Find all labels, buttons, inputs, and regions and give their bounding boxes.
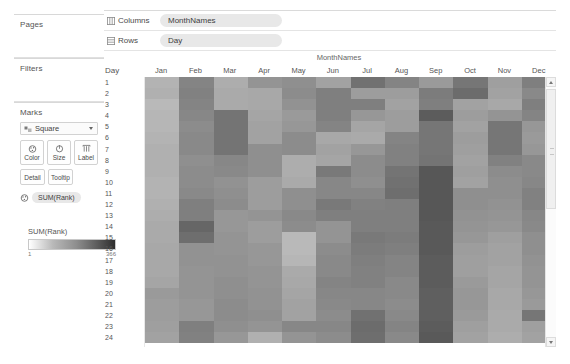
heatmap-cell[interactable] — [282, 177, 316, 188]
heatmap-cell[interactable] — [453, 266, 487, 277]
vertical-scrollbar[interactable] — [545, 77, 556, 347]
heatmap-cell[interactable] — [488, 166, 522, 177]
heatmap-cell[interactable] — [351, 177, 385, 188]
heatmap-cell[interactable] — [282, 199, 316, 210]
heatmap-cell[interactable] — [282, 288, 316, 299]
heatmap-cell[interactable] — [351, 132, 385, 143]
heatmap-cell[interactable] — [248, 332, 282, 343]
heatmap-cell[interactable] — [351, 99, 385, 110]
heatmap-cell[interactable] — [419, 232, 453, 243]
heatmap-cell[interactable] — [419, 99, 453, 110]
row-header-9[interactable]: 9 — [104, 166, 144, 177]
heatmap-cell[interactable] — [282, 155, 316, 166]
heatmap-cell[interactable] — [453, 121, 487, 132]
heatmap-cell[interactable] — [145, 177, 179, 188]
heatmap-cell[interactable] — [179, 321, 213, 332]
heatmap-cell[interactable] — [385, 266, 419, 277]
heatmap-cell[interactable] — [419, 332, 453, 343]
column-header-may[interactable]: May — [281, 66, 315, 75]
scrollbar-track[interactable] — [546, 87, 556, 337]
heatmap-cell[interactable] — [419, 155, 453, 166]
heatmap-cell[interactable] — [419, 88, 453, 99]
heatmap-cell[interactable] — [145, 299, 179, 310]
row-header-4[interactable]: 4 — [104, 110, 144, 121]
heatmap-cell[interactable] — [179, 144, 213, 155]
heatmap-cell[interactable] — [351, 77, 385, 88]
heatmap-cell[interactable] — [453, 232, 487, 243]
heatmap-cell[interactable] — [385, 332, 419, 343]
heatmap-cell[interactable] — [316, 221, 350, 232]
heatmap-cell[interactable] — [282, 221, 316, 232]
heatmap-cell[interactable] — [385, 243, 419, 254]
heatmap-cell[interactable] — [282, 88, 316, 99]
heatmap-cell[interactable] — [419, 321, 453, 332]
heatmap-cell[interactable] — [248, 243, 282, 254]
heatmap-cell[interactable] — [488, 332, 522, 343]
row-header-7[interactable]: 7 — [104, 144, 144, 155]
heatmap-cell[interactable] — [282, 132, 316, 143]
heatmap-cell[interactable] — [453, 177, 487, 188]
heatmap-cell[interactable] — [179, 266, 213, 277]
row-header-20[interactable]: 20 — [104, 288, 144, 299]
heatmap-cell[interactable] — [453, 155, 487, 166]
heatmap-cell[interactable] — [248, 199, 282, 210]
heatmap-cell[interactable] — [282, 321, 316, 332]
heatmap-cell[interactable] — [453, 132, 487, 143]
heatmap-cell[interactable] — [145, 166, 179, 177]
row-header-11[interactable]: 11 — [104, 188, 144, 199]
heatmap-cell[interactable] — [282, 144, 316, 155]
row-header-16[interactable]: 16 — [104, 243, 144, 254]
column-header-nov[interactable]: Nov — [487, 66, 521, 75]
heatmap-cell[interactable] — [316, 321, 350, 332]
row-header-17[interactable]: 17 — [104, 255, 144, 266]
heatmap-cell[interactable] — [248, 177, 282, 188]
heatmap-cell[interactable] — [248, 221, 282, 232]
heatmap-cell[interactable] — [316, 188, 350, 199]
heatmap-cell[interactable] — [316, 155, 350, 166]
heatmap-cell[interactable] — [488, 155, 522, 166]
heatmap-cell[interactable] — [179, 110, 213, 121]
heatmap-cell[interactable] — [179, 243, 213, 254]
heatmap-cell[interactable] — [453, 299, 487, 310]
heatmap-cell[interactable] — [145, 277, 179, 288]
heatmap-cell[interactable] — [214, 155, 248, 166]
heatmap-cell[interactable] — [214, 255, 248, 266]
heatmap-cell[interactable] — [145, 144, 179, 155]
row-header-14[interactable]: 14 — [104, 221, 144, 232]
columns-shelf[interactable]: Columns MonthNames — [104, 10, 556, 31]
heatmap-cell[interactable] — [488, 321, 522, 332]
scroll-down-button[interactable] — [546, 337, 556, 347]
heatmap-cell[interactable] — [145, 188, 179, 199]
heatmap-cell[interactable] — [488, 144, 522, 155]
heatmap-cell[interactable] — [214, 288, 248, 299]
heatmap-cell[interactable] — [214, 199, 248, 210]
row-header-8[interactable]: 8 — [104, 155, 144, 166]
heatmap-cell[interactable] — [248, 166, 282, 177]
column-header-oct[interactable]: Oct — [453, 66, 487, 75]
heatmap-cell[interactable] — [179, 88, 213, 99]
heatmap-cell[interactable] — [385, 132, 419, 143]
columns-shelf-slot[interactable]: MonthNames — [156, 14, 556, 27]
heatmap-cell[interactable] — [248, 321, 282, 332]
heatmap-cell[interactable] — [145, 266, 179, 277]
heatmap-cell[interactable] — [179, 288, 213, 299]
heatmap-cell[interactable] — [453, 99, 487, 110]
heatmap-cell[interactable] — [316, 177, 350, 188]
heatmap-cell[interactable] — [145, 132, 179, 143]
heatmap-cell[interactable] — [453, 221, 487, 232]
heatmap-cell[interactable] — [145, 310, 179, 321]
heatmap-cell[interactable] — [214, 243, 248, 254]
heatmap-cell[interactable] — [419, 266, 453, 277]
heatmap-cell[interactable] — [453, 188, 487, 199]
heatmap-cell[interactable] — [351, 221, 385, 232]
row-header-15[interactable]: 15 — [104, 232, 144, 243]
heatmap-cell[interactable] — [351, 255, 385, 266]
heatmap-cell[interactable] — [145, 77, 179, 88]
heatmap-cell[interactable] — [179, 132, 213, 143]
row-header-6[interactable]: 6 — [104, 132, 144, 143]
heatmap-cell[interactable] — [385, 255, 419, 266]
heatmap-cell[interactable] — [179, 77, 213, 88]
heatmap-cell[interactable] — [488, 266, 522, 277]
heatmap-cell[interactable] — [316, 288, 350, 299]
heatmap-cell[interactable] — [179, 199, 213, 210]
